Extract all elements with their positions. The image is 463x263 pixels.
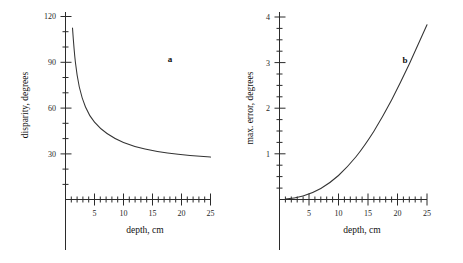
- plot-area-b: 1 2 3 4 5 10 15 20 25 depth, cm max. err…: [231, 0, 463, 263]
- panel-letter-b: b: [402, 55, 407, 65]
- y-ticklabel-2-b: 2: [266, 104, 270, 113]
- y-ticklabel-4-b: 4: [266, 13, 270, 22]
- chart-panel-a: 30 60 90 120 5 10 15 20 25 depth, cm dis…: [0, 0, 232, 263]
- x-ticklabel-5-a: 5: [93, 209, 97, 218]
- x-ticklabel-25-b: 25: [423, 209, 431, 218]
- x-ticklabel-15-b: 15: [364, 209, 372, 218]
- x-ticklabel-20-b: 20: [394, 209, 402, 218]
- y-ticklabel-3-b: 3: [266, 59, 270, 68]
- y-ticklabel-1-b: 1: [266, 150, 270, 159]
- x-ticklabel-25-a: 25: [207, 209, 215, 218]
- x-axis-title-b: depth, cm: [343, 225, 381, 235]
- x-axis-title-a: depth, cm: [126, 225, 164, 235]
- chart-panel-b: 1 2 3 4 5 10 15 20 25 depth, cm max. err…: [231, 0, 463, 263]
- x-ticklabel-20-a: 20: [178, 209, 186, 218]
- plot-area-a: 30 60 90 120 5 10 15 20 25 depth, cm dis…: [0, 0, 232, 263]
- figure-container: 30 60 90 120 5 10 15 20 25 depth, cm dis…: [0, 0, 463, 263]
- y-axis-title-b: max. error, degrees: [245, 71, 255, 144]
- x-ticklabel-5-b: 5: [307, 209, 311, 218]
- panel-letter-a: a: [168, 54, 173, 64]
- data-curve-disparity: [73, 28, 211, 157]
- x-ticklabel-10-a: 10: [120, 209, 128, 218]
- y-ticklabel-90-a: 90: [48, 58, 56, 67]
- x-ticklabel-15-a: 15: [149, 209, 157, 218]
- y-ticklabel-120-a: 120: [44, 12, 56, 21]
- y-ticklabel-30-a: 30: [48, 150, 56, 159]
- y-axis-title-a: disparity, degrees: [20, 72, 30, 139]
- data-curve-max-error: [285, 25, 427, 199]
- x-ticklabel-10-b: 10: [335, 209, 343, 218]
- y-ticklabel-60-a: 60: [48, 104, 56, 113]
